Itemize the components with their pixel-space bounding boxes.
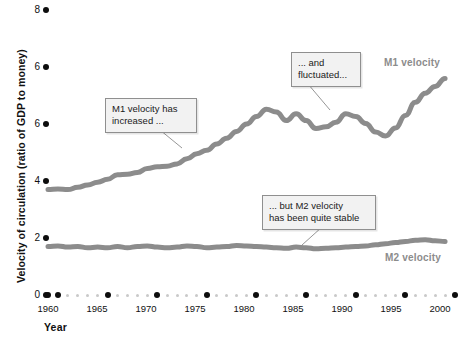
plot-area	[0, 0, 470, 340]
series-line-m2	[48, 240, 445, 249]
annotation-m1-fluctuated: ... and fluctuated...	[291, 52, 361, 87]
series-label-m1: M1 velocity	[384, 57, 440, 68]
chart-figure: Velocity of circulation (ratio of GDP to…	[0, 0, 470, 340]
annotation-leader-line	[308, 84, 330, 110]
annotation-m1-increased: M1 velocity has increased ...	[105, 98, 197, 133]
series-label-m2: M2 velocity	[385, 252, 441, 263]
series-line-m1	[48, 78, 445, 189]
annotation-m2-stable: ... but M2 velocity has been quite stabl…	[262, 195, 376, 230]
